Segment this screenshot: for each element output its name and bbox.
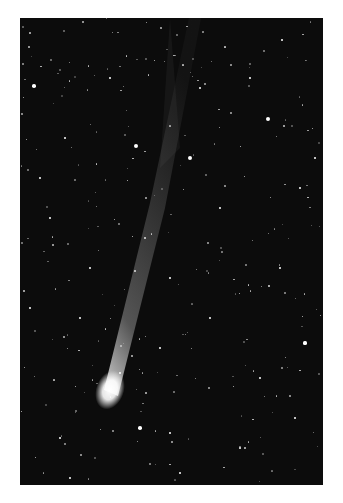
faint-star (235, 293, 237, 295)
star (89, 267, 91, 269)
faint-star (304, 293, 305, 294)
faint-star (249, 63, 251, 65)
faint-star (67, 243, 68, 244)
star (59, 437, 61, 439)
faint-star (197, 80, 198, 81)
faint-star (45, 404, 47, 406)
faint-star (176, 375, 178, 377)
faint-star (289, 395, 291, 397)
faint-star (287, 367, 288, 368)
faint-star (144, 237, 145, 238)
star (159, 347, 161, 349)
faint-star (220, 247, 222, 249)
faint-star (208, 272, 209, 273)
faint-star (22, 63, 24, 65)
star (169, 277, 171, 279)
faint-star (185, 334, 186, 335)
faint-star (63, 336, 65, 338)
star (134, 144, 138, 148)
faint-star (96, 163, 97, 164)
faint-star (281, 367, 283, 369)
faint-star (191, 348, 192, 349)
faint-star (232, 376, 233, 377)
faint-star (24, 367, 25, 368)
faint-star (40, 66, 41, 67)
faint-star (205, 174, 207, 176)
faint-star (301, 326, 302, 327)
faint-star (224, 185, 226, 187)
faint-star (23, 290, 24, 291)
star (279, 267, 281, 269)
faint-star (123, 86, 124, 87)
faint-star (61, 95, 63, 97)
faint-star (78, 164, 79, 165)
faint-star (230, 112, 232, 114)
star (249, 77, 251, 79)
faint-star (61, 435, 63, 437)
comet-photo (20, 18, 323, 485)
faint-star (59, 69, 61, 71)
faint-star (192, 58, 194, 60)
faint-star (306, 185, 307, 186)
faint-star (64, 87, 65, 88)
faint-star (134, 270, 135, 271)
faint-star (145, 336, 146, 337)
faint-star (195, 378, 196, 379)
faint-star (95, 192, 96, 193)
star (303, 341, 306, 344)
faint-star (98, 250, 99, 251)
faint-star (268, 285, 269, 286)
star (219, 207, 221, 209)
star (294, 417, 296, 419)
faint-star (63, 30, 65, 32)
faint-star (21, 113, 23, 115)
faint-star (74, 179, 76, 181)
star (39, 177, 41, 179)
faint-star (318, 142, 320, 144)
faint-star (155, 430, 157, 432)
faint-star (154, 195, 155, 196)
faint-star (310, 21, 311, 22)
star (138, 426, 142, 430)
faint-star (291, 125, 293, 127)
faint-star (82, 21, 83, 22)
faint-star (128, 126, 129, 127)
faint-star (175, 55, 176, 56)
faint-star (173, 391, 175, 393)
faint-star (271, 470, 273, 472)
faint-star (47, 261, 48, 262)
faint-star (184, 135, 185, 136)
faint-star (171, 441, 173, 443)
faint-star (252, 419, 253, 420)
faint-star (64, 443, 66, 445)
faint-star (223, 467, 224, 468)
faint-star (117, 32, 119, 34)
star (69, 477, 71, 479)
faint-star (74, 76, 76, 78)
faint-star (230, 64, 232, 66)
star (209, 317, 211, 319)
faint-star (248, 85, 250, 87)
star (32, 84, 36, 88)
star (199, 87, 201, 89)
faint-star (132, 158, 134, 160)
faint-star (268, 233, 269, 234)
star (109, 77, 111, 79)
faint-star (110, 396, 112, 398)
faint-star (110, 318, 111, 319)
faint-star (302, 316, 303, 317)
faint-star (263, 50, 265, 52)
faint-star (145, 58, 147, 60)
faint-star (287, 57, 288, 58)
faint-star (28, 46, 29, 47)
faint-star (80, 454, 82, 456)
faint-star (249, 67, 250, 68)
faint-star (161, 188, 163, 190)
faint-star (34, 330, 36, 332)
faint-star (145, 392, 147, 394)
faint-star (132, 236, 133, 237)
faint-star (50, 59, 52, 61)
faint-star (169, 125, 171, 127)
star (79, 317, 81, 319)
faint-star (168, 232, 169, 233)
